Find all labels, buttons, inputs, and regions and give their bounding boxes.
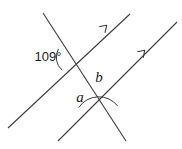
parallel-line-1 xyxy=(8,14,130,128)
angle-label-b: b xyxy=(95,69,103,85)
geometry-canvas: 109° b a xyxy=(0,0,182,149)
transversal-line xyxy=(43,13,126,141)
angle-label-109: 109° xyxy=(35,49,62,64)
parallel-line-2 xyxy=(58,22,177,141)
geometry-diagram: 109° b a xyxy=(0,0,182,149)
arrow-mark-icon-line-1 xyxy=(100,22,110,32)
angle-label-a: a xyxy=(76,89,84,105)
